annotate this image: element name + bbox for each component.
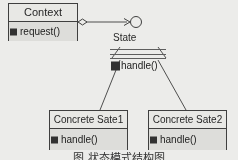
visibility-marker-icon [111,61,120,70]
visibility-marker-icon [51,136,58,143]
visibility-marker-icon [150,136,157,143]
diagram-canvas: Context request() State handle() Concret… [0,0,238,160]
operation-label: request() [20,26,60,37]
operation-handle: handle() [50,129,127,150]
interface-circle-icon [131,17,142,28]
open-arrowhead-icon [124,19,130,26]
class-rule-middle [110,54,166,55]
aggregation-diamond-icon [78,19,87,25]
operation-handle: handle() [149,129,226,150]
class-rule-top [110,49,166,50]
connector-context-to-state [78,17,142,28]
uml-class-concrete-state-1[interactable]: Concrete Sate1 handle() [49,110,128,150]
operations-compartment: handle() [50,129,127,150]
state-interface-label: State [113,32,136,43]
operation-handle: handle() [110,59,166,72]
class-name-concrete-state-2: Concrete Sate2 [149,111,226,128]
operation-label: handle() [61,134,98,145]
operations-compartment: handle() [149,129,226,150]
class-name-context: Context [9,4,77,21]
uml-class-concrete-state-2[interactable]: Concrete Sate2 handle() [148,110,227,150]
class-name-concrete-state-1: Concrete Sate1 [50,111,127,128]
visibility-marker-icon [10,28,17,35]
uml-class-context[interactable]: Context request() [8,3,78,41]
operation-label: handle() [160,134,197,145]
uml-class-state[interactable]: handle() [110,49,166,72]
operations-compartment: request() [9,22,77,41]
figure-caption: 图 状态模式结构图 [0,152,238,160]
operation-request: request() [9,22,77,41]
operation-label: handle() [121,60,158,71]
